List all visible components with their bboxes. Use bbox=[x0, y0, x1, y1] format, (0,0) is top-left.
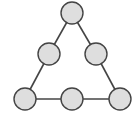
node-top bbox=[61, 2, 83, 24]
node-bottom-middle bbox=[61, 88, 83, 110]
node-mid-left bbox=[38, 43, 60, 65]
node-mid-right bbox=[85, 43, 107, 65]
diagram-nodes bbox=[14, 2, 131, 110]
node-bottom-left bbox=[14, 88, 36, 110]
node-bottom-right bbox=[109, 88, 131, 110]
triangle-diagram bbox=[0, 0, 138, 122]
